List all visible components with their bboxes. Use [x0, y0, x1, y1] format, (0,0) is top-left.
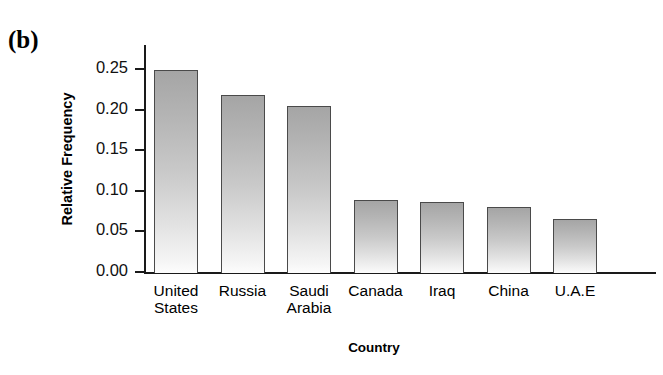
y-tick-label-0.00: 0.00: [70, 261, 128, 280]
y-axis-line: [144, 45, 146, 273]
y-tick-0.20: [135, 109, 144, 111]
bar: [154, 70, 198, 273]
category-label: Iraq: [408, 282, 476, 299]
panel-label: (b): [8, 26, 39, 54]
y-tick-0.00: [135, 271, 144, 273]
figure-panel-b: (b) Relative Frequency 0.000.050.100.150…: [0, 0, 663, 375]
bar: [221, 95, 265, 273]
y-tick-label-0.05: 0.05: [70, 220, 128, 239]
y-tick-0.10: [135, 190, 144, 192]
bar: [287, 106, 331, 273]
plot-area: 0.000.050.100.150.200.25 United StatesRu…: [144, 45, 604, 273]
category-label: Canada: [342, 282, 410, 299]
y-tick-label-0.25: 0.25: [70, 58, 128, 77]
y-tick-label-0.20: 0.20: [70, 99, 128, 118]
category-label: Russia: [209, 282, 277, 299]
x-axis-title: Country: [144, 340, 604, 355]
category-label: Saudi Arabia: [275, 282, 343, 316]
category-label: China: [475, 282, 543, 299]
y-tick-0.15: [135, 149, 144, 151]
bar: [420, 202, 464, 273]
y-tick-0.05: [135, 230, 144, 232]
bar: [487, 207, 531, 273]
bar: [553, 219, 597, 273]
y-tick-0.25: [135, 68, 144, 70]
category-label: United States: [142, 282, 210, 316]
bar: [354, 200, 398, 273]
y-tick-label-0.10: 0.10: [70, 180, 128, 199]
category-label: U.A.E: [541, 282, 609, 299]
y-tick-label-0.15: 0.15: [70, 139, 128, 158]
